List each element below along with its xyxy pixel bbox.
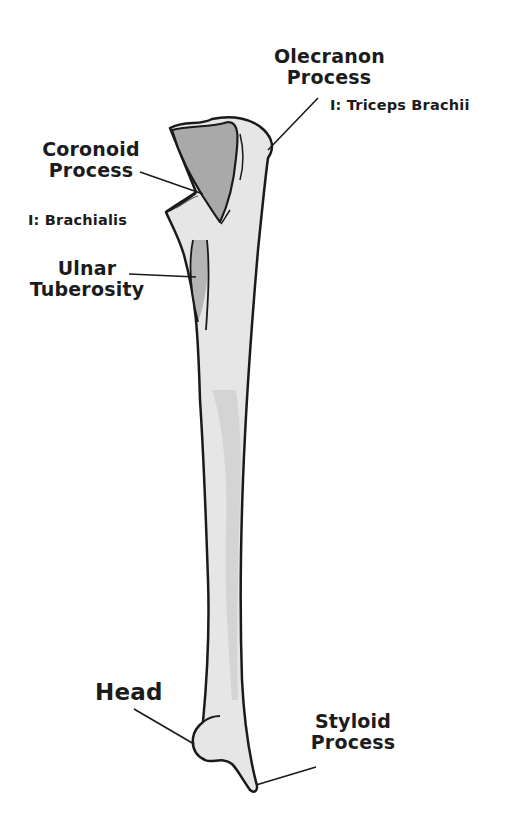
label-brachialis-insertion: I: Brachialis (28, 213, 127, 229)
label-coronoid-line2: Process (36, 160, 146, 181)
leader-head (134, 709, 194, 744)
label-styloid-line2: Process (308, 732, 398, 753)
label-triceps-insertion: I: Triceps Brachii (330, 98, 470, 114)
ulna-bone-illustration (0, 0, 516, 837)
label-styloid-process: Styloid Process (308, 711, 398, 752)
ulna-diagram: Olecranon Process I: Triceps Brachii Cor… (0, 0, 516, 837)
label-tuberosity-line1: Ulnar (24, 258, 150, 279)
label-styloid-line1: Styloid (308, 711, 398, 732)
label-olecranon-process: Olecranon Process (274, 46, 384, 87)
label-coronoid-line1: Coronoid (36, 139, 146, 160)
label-head: Head (95, 680, 163, 705)
label-olecranon-line1: Olecranon (274, 46, 384, 67)
leader-styloid (256, 767, 316, 785)
label-tuberosity-line2: Tuberosity (24, 279, 150, 300)
label-coronoid-process: Coronoid Process (36, 139, 146, 180)
label-ulnar-tuberosity: Ulnar Tuberosity (24, 258, 150, 299)
label-olecranon-line2: Process (274, 67, 384, 88)
leader-olecranon (268, 98, 318, 150)
